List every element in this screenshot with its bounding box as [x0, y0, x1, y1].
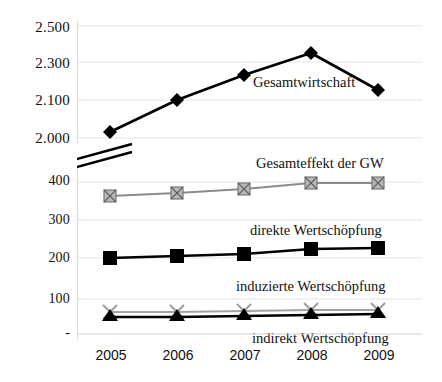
plot-area: [77, 20, 422, 340]
x-tick-2006: 2006: [145, 347, 211, 363]
y-tick-300: 300: [8, 212, 70, 228]
x-tick-2008: 2008: [279, 347, 345, 363]
y-tick-100: 100: [8, 291, 70, 307]
y-tick-2000: 2.000: [8, 130, 70, 147]
y-tick-2300: 2.300: [8, 55, 70, 72]
axis-break-marks: [77, 143, 137, 172]
y-tick-2100: 2.100: [8, 92, 70, 109]
chart-svg: [77, 20, 422, 340]
series-gesamtwirtschaft: [103, 46, 385, 139]
y-tick-2500: 2.500: [8, 19, 70, 36]
y-tick-200: 200: [8, 250, 70, 266]
series-gesamteffekt: [104, 177, 384, 202]
series-indirekt-wertschoepfung: [102, 306, 386, 321]
x-tick-2007: 2007: [212, 347, 278, 363]
x-tick-2009: 2009: [346, 347, 412, 363]
y-tick-zero: -: [8, 325, 70, 341]
y-tick-400: 400: [8, 173, 70, 189]
series-direkte-wertschoepfung: [103, 241, 385, 265]
x-tick-2005: 2005: [78, 347, 144, 363]
broken-axis-line-chart: 2.500 2.300 2.100 2.000 400 300 200 100 …: [0, 0, 442, 382]
